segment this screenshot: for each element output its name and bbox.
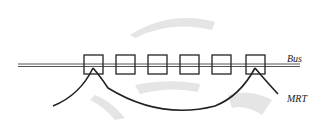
bus-label: Bus bbox=[287, 53, 302, 64]
transit-diagram bbox=[0, 0, 325, 128]
bus-line bbox=[18, 64, 300, 67]
mrt-label: MRT bbox=[287, 93, 307, 104]
stipple-areas bbox=[90, 18, 272, 120]
